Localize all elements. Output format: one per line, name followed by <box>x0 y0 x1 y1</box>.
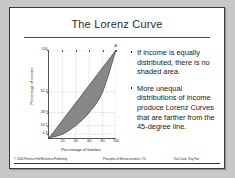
footer-book-title: Principles of Microeconomics, 7/e <box>103 157 146 161</box>
slide-title: The Lorenz Curve <box>10 18 224 30</box>
bullet-dot-icon <box>131 87 133 89</box>
y-axis-tick-mark <box>47 113 49 114</box>
x-axis-tick-label: 40 <box>74 140 78 144</box>
equality-line-45-degree <box>49 50 116 138</box>
x-axis-tick-mark <box>89 50 90 52</box>
bullet-dot-icon <box>131 51 133 53</box>
x-axis-tick-label: 20 <box>60 140 64 144</box>
list-item: If income is equally distributed, there … <box>130 48 218 77</box>
x-axis-tick-mark <box>103 50 104 52</box>
x-axis-tick-label: 60 <box>87 140 91 144</box>
footer-authors: Karl Case, Ray Fair <box>174 157 199 161</box>
x-axis-label: Percentage of families <box>35 147 127 152</box>
y-axis-tick-mark <box>47 126 49 127</box>
y-axis-tick-mark <box>47 92 49 93</box>
x-axis-tick-mark <box>62 50 63 52</box>
bullet-list: If income is equally distributed, there … <box>130 48 218 139</box>
bullet-text: More unequal distributions of income pro… <box>137 84 215 131</box>
y-axis-tick-mark <box>47 50 49 51</box>
list-item: More unequal distributions of income pro… <box>130 84 218 132</box>
slide-canvas: The Lorenz Curve Percentage of income 4.… <box>0 0 235 178</box>
y-axis-tick-mark <box>47 134 49 135</box>
chart-plot-svg <box>49 50 116 138</box>
slide-footer: © 2004 Prentice Hall Business Publishing… <box>14 157 220 164</box>
y-axis-label: Percentage of income <box>30 59 34 113</box>
x-axis-tick-mark <box>76 50 77 52</box>
lorenz-curve-chart: Percentage of income 4.314.128.952.4100 … <box>21 46 125 158</box>
point-a-label: A <box>115 45 117 49</box>
title-divider <box>24 37 210 38</box>
chart-plot-area: 4.314.128.952.4100 20406080100 <box>48 50 116 139</box>
x-axis-tick-label: 100 <box>113 140 119 144</box>
bullet-text: If income is equally distributed, there … <box>137 48 210 76</box>
x-axis-tick-mark <box>116 50 117 52</box>
x-axis-tick-label: 80 <box>101 140 105 144</box>
footer-divider <box>14 163 220 164</box>
presentation-slide: The Lorenz Curve Percentage of income 4.… <box>9 7 225 169</box>
footer-copyright: © 2004 Prentice Hall Business Publishing <box>14 157 67 161</box>
